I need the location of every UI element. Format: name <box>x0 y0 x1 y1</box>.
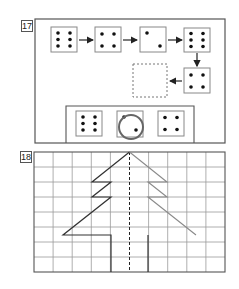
answer-blank-box[interactable] <box>133 64 167 97</box>
sequence-die-5 <box>184 68 210 93</box>
sequence-die-2 <box>95 27 121 52</box>
sequence-die-1 <box>51 27 77 52</box>
puzzle-17-figure <box>0 0 239 289</box>
sequence-die-3 <box>140 27 166 52</box>
option-die-six[interactable] <box>76 111 102 136</box>
puzzle-number-18: 18 <box>20 151 32 163</box>
sequence-die-4 <box>184 28 210 52</box>
option-die-four[interactable] <box>158 111 184 136</box>
tree-right-half <box>130 152 197 235</box>
